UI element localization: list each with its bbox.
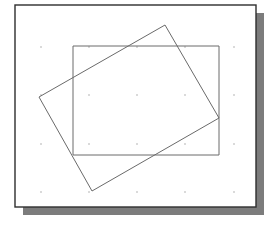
grid-dot	[136, 94, 137, 95]
grid-dot	[184, 46, 185, 47]
grid-dot	[136, 46, 137, 47]
grid-dot	[184, 191, 185, 192]
grid-dot	[184, 94, 185, 95]
grid-dot	[88, 46, 89, 47]
grid-dot	[40, 143, 41, 144]
drawing-frame	[15, 5, 256, 207]
grid-dot	[233, 46, 234, 47]
grid-dot	[184, 143, 185, 144]
drawing-canvas	[0, 0, 271, 227]
grid-dot	[136, 191, 137, 192]
grid-dot	[233, 143, 234, 144]
grid-dot	[233, 94, 234, 95]
grid-dot	[88, 143, 89, 144]
grid-dot	[136, 143, 137, 144]
grid-dot	[40, 191, 41, 192]
grid-dot	[233, 191, 234, 192]
grid-dot	[88, 94, 89, 95]
grid-dot	[40, 46, 41, 47]
grid-dot	[88, 191, 89, 192]
